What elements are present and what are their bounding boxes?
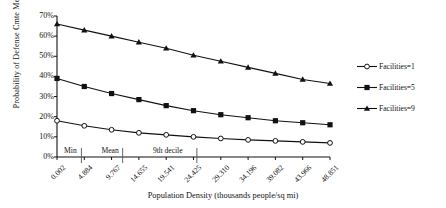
data-point — [82, 84, 87, 89]
data-point — [273, 118, 278, 123]
data-point — [300, 139, 305, 144]
data-point — [245, 115, 250, 120]
data-point — [55, 118, 60, 123]
legend-item[interactable]: Facilities=9 — [356, 98, 446, 119]
data-point — [109, 127, 114, 132]
legend-item[interactable]: Facilities=5 — [356, 77, 446, 98]
legend-label: Facilities=9 — [379, 104, 415, 113]
data-point — [273, 138, 278, 143]
legend-label: Facilities=1 — [379, 62, 415, 71]
data-point — [191, 108, 196, 113]
chart-container: Probability of Defense Cmte Membership 0… — [0, 0, 446, 208]
data-point — [54, 76, 59, 81]
data-point — [328, 141, 333, 146]
data-point — [300, 120, 305, 125]
chart-legend: Facilities=1Facilities=5Facilities=9 — [356, 56, 446, 119]
data-point — [191, 134, 196, 139]
data-point — [327, 122, 332, 127]
data-point — [136, 97, 141, 102]
annotation-label: Mean — [101, 146, 118, 155]
data-series-group — [54, 21, 333, 145]
annotation-label: 9th decile — [153, 146, 183, 155]
data-point — [136, 130, 141, 135]
data-point — [218, 112, 223, 117]
series-facilities-5 — [54, 76, 332, 128]
data-point — [164, 103, 169, 108]
filled-square-icon — [356, 82, 378, 93]
data-point — [246, 137, 251, 142]
data-point — [218, 136, 223, 141]
data-point — [82, 123, 87, 128]
x-axis-title: Population Density (thousands people/sq … — [0, 191, 446, 200]
open-circle-icon — [356, 61, 378, 72]
series-facilities-9 — [54, 21, 333, 86]
legend-item[interactable]: Facilities=1 — [356, 56, 446, 77]
legend-label: Facilities=5 — [379, 83, 415, 92]
annotation-label: Min — [64, 146, 77, 155]
series-line — [57, 78, 330, 124]
data-point — [54, 21, 60, 26]
filled-triangle-icon — [356, 103, 378, 114]
data-point — [109, 91, 114, 96]
data-point — [164, 132, 169, 137]
